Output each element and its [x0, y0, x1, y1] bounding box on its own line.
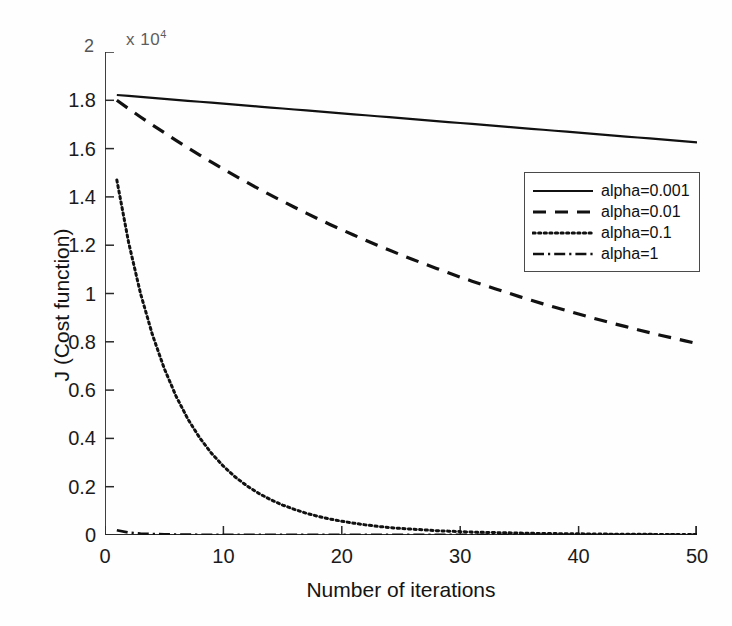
x-axis-tick-label: 0: [99, 545, 110, 568]
legend-label: alpha=0.1: [601, 224, 672, 242]
x-axis-tick-label: 20: [331, 545, 353, 568]
legend-label: alpha=0.001: [601, 182, 690, 200]
y-axis-multiplier-label: x 104: [126, 28, 167, 50]
y-axis-tick-label: 0.2: [36, 475, 96, 498]
plot-area: [105, 52, 697, 535]
legend-line-sample: [532, 184, 594, 198]
series-line: [117, 530, 697, 535]
y-axis-title: J (Cost function): [50, 155, 74, 455]
y-axis-multiplier-base: x 10: [126, 30, 160, 49]
y-axis-multiplier-exponent: 4: [160, 28, 167, 40]
legend-line-sample: [532, 226, 594, 240]
x-axis-tick-label: 30: [449, 545, 471, 568]
legend-label: alpha=1: [601, 245, 658, 263]
y-axis-tick-label: 1.8: [36, 89, 96, 112]
x-axis-title: Number of iterations: [105, 578, 697, 602]
legend-item[interactable]: alpha=0.01: [532, 201, 690, 222]
figure-container: 2 x 104 00.20.40.60.811.21.41.61.8 01020…: [0, 0, 732, 626]
y-axis-tick-label: 0: [36, 524, 96, 547]
legend-item[interactable]: alpha=0.001: [532, 180, 690, 201]
x-axis-tick-label: 40: [567, 545, 589, 568]
legend-label: alpha=0.01: [601, 203, 681, 221]
x-axis-tick-labels: 01020304050: [105, 545, 697, 575]
legend-item[interactable]: alpha=1: [532, 243, 690, 264]
x-axis-tick-label: 10: [212, 545, 234, 568]
legend-line-sample: [532, 247, 594, 261]
data-curves: [105, 52, 697, 535]
legend-item[interactable]: alpha=0.1: [532, 222, 690, 243]
series-line: [117, 95, 697, 142]
x-axis-tick-label: 50: [686, 545, 708, 568]
legend-box: alpha=0.001alpha=0.01alpha=0.1alpha=1: [524, 172, 700, 272]
legend-line-sample: [532, 205, 594, 219]
